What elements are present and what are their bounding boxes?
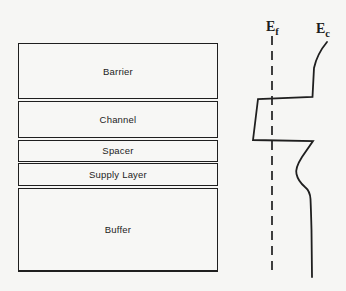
band-diagram: Ef Ec — [0, 0, 346, 291]
conduction-band-label: Ec — [316, 21, 330, 39]
heterostructure-band-figure: Barrier Channel Spacer Supply Layer Buff… — [0, 0, 346, 291]
conduction-band-curve — [253, 42, 327, 277]
fermi-level-label: Ef — [266, 19, 279, 37]
